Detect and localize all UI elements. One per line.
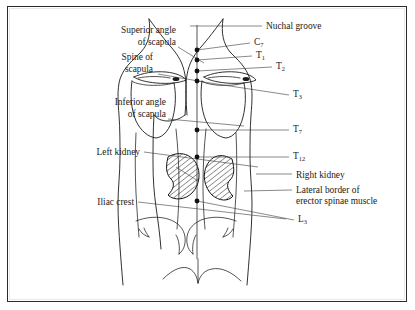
gluteal-region	[163, 259, 241, 283]
label-inferior-angle-of-scapula-line2: of scapula	[128, 109, 167, 119]
label-nuchal-groove: Nuchal groove	[266, 21, 321, 31]
label-t1: T1	[256, 50, 265, 61]
label-spine-of-scapula-line1: Spine of	[121, 52, 153, 62]
label-l3: L3	[298, 214, 307, 225]
left-labels: Superior angle of scapula Spine of scapu…	[97, 25, 177, 207]
label-lateral-border-erector-spinae-line2: erector spinae muscle	[296, 196, 377, 206]
label-t7: T7	[293, 124, 303, 135]
dot-c7	[195, 48, 200, 53]
anatomy-diagram: Superior angle of scapula Spine of scapu…	[8, 7, 408, 303]
label-right-kidney: Right kidney	[296, 170, 345, 180]
right-kidney-shape	[204, 156, 233, 200]
label-c7: C7	[254, 37, 264, 48]
left-kidney-shape	[167, 154, 200, 199]
dot-t12	[195, 155, 200, 160]
label-inferior-angle-of-scapula-line1: Inferior angle	[115, 97, 166, 107]
label-iliac-crest: Iliac crest	[97, 197, 134, 207]
right-labels: Nuchal groove Right kidney Lateral borde…	[266, 21, 377, 206]
figure-frame: Superior angle of scapula Spine of scapu…	[7, 6, 407, 302]
right-iliac-crest	[187, 217, 236, 254]
dot-t1	[195, 58, 200, 63]
label-t2: T2	[276, 61, 285, 72]
vertebral-leader-lines	[190, 26, 294, 220]
dot-t7	[195, 128, 200, 133]
label-spine-of-scapula-line2: scapula	[125, 64, 154, 74]
label-lateral-border-erector-spinae-line1: Lateral border of	[296, 185, 360, 195]
acromion-marker-right	[243, 77, 250, 81]
right-scapula	[201, 72, 256, 138]
label-t3: T3	[293, 89, 302, 100]
label-superior-angle-of-scapula-line2: of scapula	[138, 37, 177, 47]
dot-l3	[195, 199, 200, 204]
label-t12: T12	[293, 151, 305, 162]
dot-t2	[195, 69, 200, 74]
dot-t3	[195, 79, 200, 84]
label-superior-angle-of-scapula-line1: Superior angle	[121, 25, 176, 35]
label-left-kidney: Left kidney	[97, 147, 141, 157]
